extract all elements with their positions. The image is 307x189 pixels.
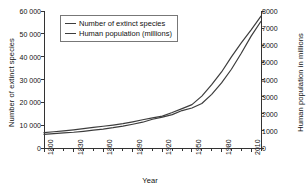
chart-legend: Number of extinct species Human populati… [60, 15, 178, 42]
legend-item-extinct-species: Number of extinct species [65, 18, 172, 28]
chart-figure: Number of extinct species Human populati… [0, 0, 307, 189]
legend-label-human-population: Human population (millions) [79, 29, 172, 38]
legend-label-extinct-species: Number of extinct species [79, 19, 165, 28]
legend-item-human-population: Human population (millions) [65, 28, 172, 38]
legend-line-icon-human-population [65, 33, 76, 34]
legend-line-icon-extinct-species [65, 23, 76, 24]
